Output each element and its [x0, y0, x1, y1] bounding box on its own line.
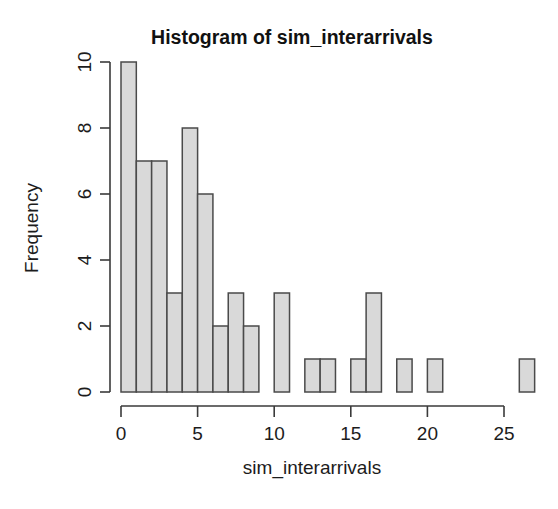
histogram-bar: [519, 359, 534, 392]
histogram-bar: [213, 326, 228, 392]
x-tick-label: 10: [264, 423, 285, 444]
histogram-bar: [198, 194, 213, 392]
histogram-bar: [351, 359, 366, 392]
histogram-bar: [274, 293, 289, 392]
page-title: Histogram of sim_interarrivals: [151, 26, 433, 48]
histogram-bar: [305, 359, 320, 392]
histogram-bar: [228, 293, 243, 392]
y-tick-label: 6: [74, 189, 95, 200]
histogram-bar: [320, 359, 335, 392]
histogram-bar: [136, 161, 151, 392]
histogram-bar: [427, 359, 442, 392]
histogram-bar: [182, 128, 197, 392]
histogram-bar: [121, 62, 136, 392]
histogram-bar: [167, 293, 182, 392]
y-axis-label: Frequency: [21, 183, 42, 273]
y-tick-label: 4: [74, 254, 95, 265]
histogram-bar: [152, 161, 167, 392]
x-tick-label: 20: [417, 423, 438, 444]
x-tick-label: 15: [340, 423, 361, 444]
y-tick-label: 2: [74, 321, 95, 332]
x-axis-label: sim_interarrivals: [243, 457, 381, 479]
chart-canvas: Histogram of sim_interarrivals 0246810 0…: [0, 0, 558, 509]
y-tick-label: 8: [74, 123, 95, 134]
x-tick-label: 0: [116, 423, 127, 444]
x-tick-label: 25: [493, 423, 514, 444]
y-tick-label: 10: [74, 51, 95, 72]
histogram-plot: Histogram of sim_interarrivals 0246810 0…: [0, 0, 558, 509]
histogram-bar: [366, 293, 381, 392]
histogram-bar: [397, 359, 412, 392]
histogram-bar: [244, 326, 259, 392]
y-tick-label: 0: [74, 387, 95, 398]
x-tick-label: 5: [192, 423, 203, 444]
